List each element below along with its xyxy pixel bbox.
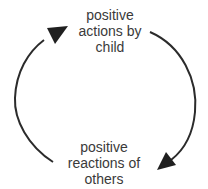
node-line: positive <box>72 7 148 23</box>
node-line: actions by <box>72 23 148 39</box>
arrow-top-to-bottom <box>150 32 195 160</box>
arrow-bottom-to-top <box>15 40 53 162</box>
node-positive-actions-by-child: positive actions by child <box>72 7 148 55</box>
node-line: positive <box>58 139 150 155</box>
arrowhead-bottom-icon <box>157 152 176 170</box>
node-line: child <box>72 39 148 55</box>
node-line: reactions of <box>58 155 150 171</box>
arrowhead-top-icon <box>47 26 68 44</box>
node-line: others <box>58 171 150 187</box>
node-positive-reactions-of-others: positive reactions of others <box>58 139 150 187</box>
